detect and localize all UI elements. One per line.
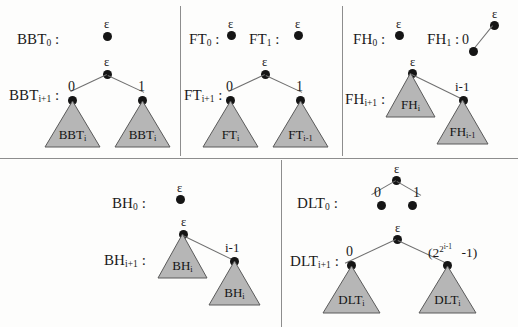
divider-vertical-bottom xyxy=(281,160,282,327)
dlt-subtree-right-label: DLTi xyxy=(418,293,477,308)
fh-subtree-right: FHi-1 xyxy=(436,99,489,145)
fh-base-root-epsilon: ε xyxy=(396,18,401,31)
bh-base-label: BH0 : xyxy=(112,196,146,213)
bbt-subtree-left: BBTi xyxy=(44,100,101,148)
dlt-base-root-epsilon: ε xyxy=(394,163,399,176)
dlt-subtree-left: DLTi xyxy=(322,265,381,314)
fh-rec-root-epsilon: ε xyxy=(410,56,415,69)
ft-edge-label-right: 1 xyxy=(296,80,303,94)
ft-base2-label: FT1 : xyxy=(249,32,280,49)
ft-subtree-left-label: FTi xyxy=(202,128,259,143)
dlt-edge-label-left: 0 xyxy=(346,245,353,259)
dlt-edge-label-right: (22i-1 -1) xyxy=(428,243,477,260)
bh-base-root-node xyxy=(176,195,185,204)
bbt-base-root-epsilon: ε xyxy=(104,18,109,31)
fh-subtree-left: FHi xyxy=(385,72,436,118)
bbt-base-root-node xyxy=(103,32,112,41)
fh-edge-label-right: i-1 xyxy=(455,80,469,93)
ft-base-root-node xyxy=(227,31,236,40)
bh-rec-label: BHi+1 : xyxy=(104,253,146,270)
bbt-edge-label-left: 0 xyxy=(68,80,75,94)
dlt-base-edge-label-left: 0 xyxy=(374,186,381,200)
dlt-rec-root-epsilon: ε xyxy=(395,222,400,235)
dlt-base-child-node-right xyxy=(408,201,417,210)
dlt-subtree-left-label: DLTi xyxy=(322,293,381,308)
fh-base2-edge-label: 0 xyxy=(462,33,469,47)
fh-subtree-left-label: FHi xyxy=(385,98,436,113)
bh-rec-root-epsilon: ε xyxy=(181,216,186,229)
ft-subtree-left: FTi xyxy=(202,100,259,148)
bh-subtree-left-label: BHi xyxy=(157,259,208,274)
fh-base2-label: FH1 : xyxy=(427,32,459,49)
dlt-base-edge-label-right: 1 xyxy=(413,186,420,200)
bh-subtree-right-label: BHi xyxy=(208,286,261,301)
bh-subtree-left: BHi xyxy=(157,233,208,279)
bh-edge-label-right: i-1 xyxy=(225,241,239,254)
ft-base-root-epsilon: ε xyxy=(228,18,233,31)
bbt-subtree-right-label: BBTi xyxy=(114,128,171,143)
ft-base2-root-epsilon: ε xyxy=(295,18,300,31)
ft-rec-root-epsilon: ε xyxy=(262,56,267,69)
bbt-subtree-right: BBTi xyxy=(114,100,171,148)
fh-base2-root-epsilon: ε xyxy=(492,8,497,21)
bbt-base-label: BBT0 : xyxy=(17,32,59,49)
ft-subtree-right-label: FTi-1 xyxy=(272,128,329,143)
fh-base-root-node xyxy=(395,31,404,40)
ft-edge-label-left: 0 xyxy=(226,80,233,94)
fh-base2-child-node xyxy=(469,47,478,56)
divider-vertical-top-2 xyxy=(342,6,343,156)
fh-rec-label: FHi+1 : xyxy=(345,92,385,109)
ft-base2-root-node xyxy=(294,31,303,40)
ft-edge-left xyxy=(228,74,265,92)
ft-subtree-right: FTi-1 xyxy=(272,100,329,148)
divider-horizontal xyxy=(0,158,518,159)
bh-base-root-epsilon: ε xyxy=(177,182,182,195)
bbt-subtree-left-label: BBTi xyxy=(44,128,101,143)
dlt-base-child-node-left xyxy=(377,201,386,210)
bbt-edge-label-right: 1 xyxy=(138,80,145,94)
bbt-edge-left xyxy=(70,74,107,92)
ft-base-label: FT0 : xyxy=(189,32,220,49)
dlt-base-label: DLT0 : xyxy=(297,196,338,213)
dlt-subtree-right: DLTi xyxy=(418,265,477,314)
bbt-rec-root-epsilon: ε xyxy=(104,56,109,69)
fh-base-label: FH0 : xyxy=(353,32,385,49)
fh-subtree-right-label: FHi-1 xyxy=(436,125,489,140)
figure-canvas: BBT0 : ε BBTi+1 : ε 0 1 BBTi B xyxy=(0,0,518,327)
bh-subtree-right: BHi xyxy=(208,260,261,306)
divider-vertical-top-1 xyxy=(180,6,181,156)
